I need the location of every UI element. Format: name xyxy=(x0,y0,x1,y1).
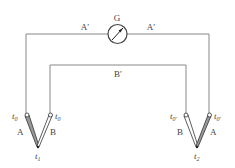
junction-2-tip-label: t2 xyxy=(194,151,200,162)
thermocouple-diagram: G A′ A′ B′ t0 t0 A B t1 t0′ t0′ B A t2 xyxy=(0,0,235,168)
junction-2-leg-a-label: A xyxy=(210,127,217,137)
junction-1-right-terminal-label: t0 xyxy=(55,111,61,122)
junction-2-right-terminal-label: t0′ xyxy=(214,111,222,122)
galvanometer-icon xyxy=(108,25,127,44)
junction-1-left-terminal-label: t0 xyxy=(12,111,18,122)
inner-wire-label: B′ xyxy=(114,69,122,79)
junction-1 xyxy=(25,113,53,148)
outer-wire-left-label: A′ xyxy=(81,22,89,32)
junction-2 xyxy=(184,113,212,148)
junction-1-tip-label: t1 xyxy=(35,151,41,162)
galvanometer-label: G xyxy=(114,13,121,23)
junction-1-leg-a-label: A xyxy=(17,127,24,137)
junction-2-leg-b-label: B xyxy=(177,127,183,137)
junction-2-left-terminal-label: t0′ xyxy=(170,111,178,122)
outer-wire-right-label: A′ xyxy=(147,22,155,32)
junction-1-leg-b-label: B xyxy=(50,127,56,137)
